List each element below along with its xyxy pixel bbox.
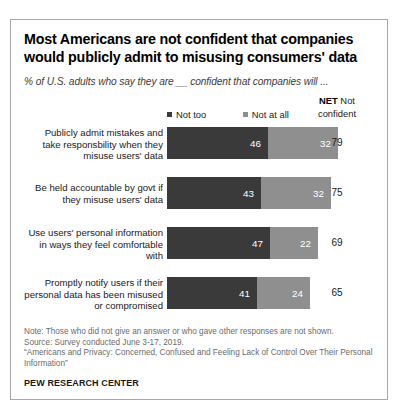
net-value: 75	[304, 187, 370, 198]
bar-segment-not-at-all: 24	[257, 277, 310, 309]
legend-and-net-header: Not too Not at all NET Not confident	[24, 95, 374, 125]
bar-segment-not-too: 46	[167, 127, 268, 159]
chart-title: Most Americans are not confident that co…	[24, 31, 374, 66]
row-label: Use users' personal information in ways …	[24, 227, 163, 262]
legend-label-not-at-all: Not at all	[252, 109, 289, 120]
table-row: Be held accountable by govt if they misu…	[24, 177, 374, 209]
table-row: Promptly notify users if their personal …	[24, 277, 374, 309]
bar-segment-not-too: 47	[167, 227, 270, 259]
row-label: Be held accountable by govt if they misu…	[24, 182, 163, 205]
pew-research-center-brand: PEW RESEARCH CENTER	[24, 378, 374, 388]
chart-card: Most Americans are not confident that co…	[10, 19, 388, 400]
legend-label-not-too: Not too	[176, 109, 206, 120]
report-title: “Americans and Privacy: Concerned, Confu…	[24, 348, 374, 369]
chart-subtitle: % of U.S. adults who say they are __ con…	[24, 75, 374, 88]
chart-notes: Note: Those who did not give an answer o…	[24, 327, 374, 369]
row-label: Publicly admit mistakes and take respons…	[24, 127, 163, 162]
net-value: 69	[304, 237, 370, 248]
bar-segment-not-too: 41	[167, 277, 257, 309]
stacked-bar: 47 22	[167, 227, 318, 259]
legend-swatch-not-at-all-icon	[243, 112, 248, 117]
row-label: Promptly notify users if their personal …	[24, 277, 163, 312]
table-row: Publicly admit mistakes and take respons…	[24, 127, 374, 159]
bar-segment-not-too: 43	[167, 177, 261, 209]
net-header-strong: NET	[319, 95, 338, 106]
net-value: 79	[304, 137, 370, 148]
legend-item-not-too: Not too	[167, 109, 206, 120]
chart-legend: Not too Not at all	[167, 109, 289, 120]
net-value: 65	[304, 287, 370, 298]
source-line: Source: Survey conducted June 3-17, 2019…	[24, 338, 374, 349]
table-row: Use users' personal information in ways …	[24, 227, 374, 259]
legend-swatch-not-too-icon	[167, 112, 172, 117]
legend-item-not-at-all: Not at all	[243, 109, 289, 120]
note-line: Note: Those who did not give an answer o…	[24, 327, 374, 338]
bar-rows: Publicly admit mistakes and take respons…	[24, 127, 374, 309]
net-column-header: NET Not confident	[304, 95, 370, 120]
stacked-bar: 41 24	[167, 277, 310, 309]
